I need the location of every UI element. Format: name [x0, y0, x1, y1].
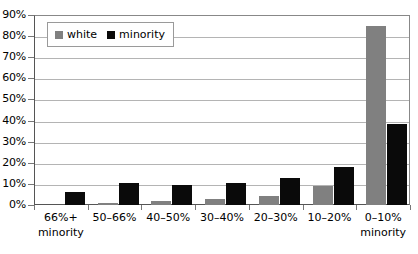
bar-white — [313, 186, 333, 205]
legend-item-minority: minority — [107, 29, 165, 40]
legend-item-white: white — [55, 29, 97, 40]
bar-minority — [119, 183, 139, 205]
x-axis-tick — [356, 205, 357, 210]
legend-swatch-minority-icon — [107, 31, 115, 39]
bar-white — [205, 199, 225, 205]
bar-minority — [226, 183, 246, 205]
y-axis-label: 0% — [0, 199, 26, 210]
y-axis-label: 30% — [0, 136, 26, 147]
bar-minority — [387, 124, 407, 205]
legend-label-minority: minority — [119, 29, 165, 40]
legend-label-white: white — [67, 29, 97, 40]
bar-minority — [172, 185, 192, 205]
y-axis-label: 70% — [0, 51, 26, 62]
bar-minority — [280, 178, 300, 205]
x-axis-tick — [88, 205, 89, 210]
bar-white — [151, 201, 171, 205]
x-axis-tick — [249, 205, 250, 210]
bar-white — [366, 26, 386, 205]
bar-minority — [334, 167, 354, 205]
y-axis-label: 60% — [0, 72, 26, 83]
bar-group — [356, 15, 410, 205]
y-axis-label: 80% — [0, 30, 26, 41]
bar-group — [303, 15, 357, 205]
y-axis-label: 50% — [0, 93, 26, 104]
x-axis-label: 0–10%minority — [340, 211, 418, 240]
x-axis-label-line2: minority — [18, 225, 104, 240]
bar-group — [249, 15, 303, 205]
bar-white — [98, 203, 118, 205]
x-axis-tick — [34, 205, 35, 210]
bar-chart: 0%10%20%30%40%50%60%70%80%90% 66%+minori… — [0, 0, 418, 254]
x-axis-label-line2: minority — [340, 225, 418, 240]
x-axis-tick — [195, 205, 196, 210]
bar-minority — [65, 192, 85, 205]
x-axis-tick — [410, 205, 411, 210]
x-axis-tick — [141, 205, 142, 210]
legend-swatch-white-icon — [55, 31, 63, 39]
y-axis-label: 40% — [0, 115, 26, 126]
y-axis-label: 10% — [0, 178, 26, 189]
bar-white — [259, 196, 279, 206]
x-axis-tick — [303, 205, 304, 210]
x-axis-label-line1: 0–10% — [365, 211, 402, 224]
y-axis-label: 20% — [0, 157, 26, 168]
bar-group — [195, 15, 249, 205]
chart-legend: white minority — [47, 22, 174, 47]
y-axis-label: 90% — [0, 9, 26, 20]
